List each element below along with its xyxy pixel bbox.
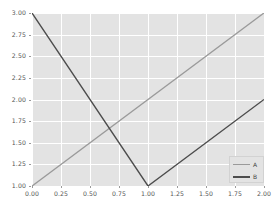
x-tick-label: 0.50 <box>75 190 105 197</box>
x-tick-label: 1.50 <box>191 190 221 197</box>
y-tick-mark <box>29 100 31 101</box>
x-tick-mark <box>235 186 236 188</box>
x-tick-label: 2.00 <box>249 190 273 197</box>
x-tick-label: 1.25 <box>162 190 192 197</box>
y-tick-label: 1.75 <box>2 117 26 124</box>
x-tick-mark <box>206 186 207 188</box>
legend-entry-a[interactable]: A <box>230 158 263 171</box>
chart-figure: 0.000.250.500.751.001.251.501.752.00 1.0… <box>0 0 273 212</box>
legend-entry-b[interactable]: B <box>230 171 263 184</box>
x-tick-mark <box>32 186 33 188</box>
x-tick-label: 1.00 <box>133 190 163 197</box>
legend-label: B <box>253 174 257 180</box>
y-tick-mark <box>29 143 31 144</box>
y-tick-label: 3.00 <box>2 9 26 16</box>
y-tick-label: 2.75 <box>2 31 26 38</box>
x-tick-mark <box>119 186 120 188</box>
x-tick-mark <box>61 186 62 188</box>
y-tick-label: 1.00 <box>2 182 26 189</box>
y-tick-mark <box>29 121 31 122</box>
y-tick-label: 2.25 <box>2 74 26 81</box>
y-tick-mark <box>29 164 31 165</box>
x-tick-mark <box>148 186 149 188</box>
y-tick-mark <box>29 35 31 36</box>
legend-line-swatch <box>233 176 250 178</box>
y-tick-label: 2.00 <box>2 96 26 103</box>
y-tick-label: 2.50 <box>2 52 26 59</box>
x-tick-label: 0.00 <box>17 190 47 197</box>
legend-label: A <box>253 162 257 168</box>
x-tick-mark <box>264 186 265 188</box>
y-tick-mark <box>29 56 31 57</box>
x-tick-mark <box>90 186 91 188</box>
y-tick-mark <box>29 78 31 79</box>
legend-line-swatch <box>233 164 250 166</box>
y-tick-mark <box>29 186 31 187</box>
y-tick-label: 1.25 <box>2 160 26 167</box>
x-tick-label: 0.75 <box>104 190 134 197</box>
x-tick-label: 1.75 <box>220 190 250 197</box>
chart-legend[interactable]: AB <box>229 156 264 183</box>
x-tick-mark <box>177 186 178 188</box>
x-tick-label: 0.25 <box>46 190 76 197</box>
y-tick-mark <box>29 13 31 14</box>
y-tick-label: 1.50 <box>2 139 26 146</box>
